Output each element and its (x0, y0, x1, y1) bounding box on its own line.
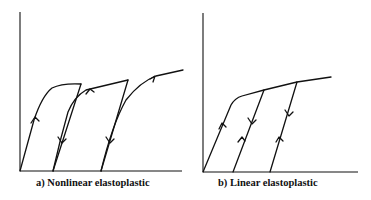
caption-nonlinear-elastoplastic: a) Nonlinear elastoplastic (36, 177, 150, 188)
caption-linear-elastoplastic: b) Linear elastoplastic (218, 177, 318, 188)
panel-b-axes (203, 13, 358, 172)
diagram-canvas (0, 0, 371, 200)
panel-b-curves (203, 77, 331, 172)
panel-a-axes (20, 12, 182, 171)
panel-a-curves (20, 70, 183, 171)
